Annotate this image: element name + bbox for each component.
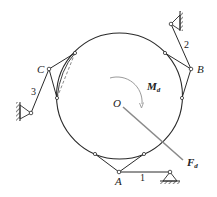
force-label: Fd (186, 156, 198, 170)
link-label-3: 3 (31, 86, 36, 97)
joint-label-b: B (197, 63, 204, 75)
ground-support-2 (169, 11, 183, 31)
center-label-o: O (113, 97, 121, 109)
linkage-a (93, 152, 170, 173)
force-fd-line (123, 107, 183, 160)
joint-label-a: A (114, 175, 122, 187)
link-label-2: 2 (184, 39, 189, 50)
moment-label: Md (146, 80, 161, 94)
joint-label-c: C (37, 63, 45, 75)
mechanism-diagram: O (0, 0, 217, 197)
linkage-b (163, 24, 192, 100)
link-label-1: 1 (140, 172, 145, 183)
ground-support-3 (16, 102, 33, 121)
linkage-c (31, 51, 77, 113)
